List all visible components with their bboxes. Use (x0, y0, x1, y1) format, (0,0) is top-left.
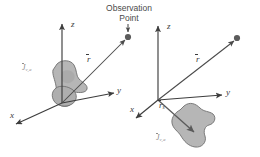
right-axis-label-x: x (130, 105, 134, 114)
right-observation-point-dot (234, 35, 240, 41)
left-source-label: Jv,a (22, 64, 32, 73)
left-vector-label-r: r (87, 55, 91, 64)
right-source-label-base: J (156, 134, 160, 142)
diagram-canvas (0, 0, 260, 157)
right-source-blob (172, 103, 215, 147)
left-source-label-base: J (22, 64, 26, 72)
right-vector-label-rs: rs (159, 101, 165, 111)
left-axis-label-z: z (71, 20, 75, 29)
left-observation-point-dot (125, 34, 131, 40)
right-panel (136, 26, 240, 147)
right-source-label: Jv,a (156, 134, 166, 143)
right-vector-r (158, 41, 234, 100)
right-vector-label-r-base: r (196, 55, 200, 64)
left-source-label-subscript: v,a (26, 67, 32, 72)
right-source-label-subscript: v,a (160, 137, 166, 142)
radiation-geometry-figure: Observation Point z y x r Jv,a z y x r r… (0, 0, 260, 157)
left-axis-x (16, 103, 62, 124)
observation-caption-line1: Observation (100, 3, 158, 13)
observation-caption-line2: Point (100, 13, 158, 23)
right-axis-x (136, 100, 158, 118)
right-axis-y (158, 95, 222, 100)
right-axis-label-y: y (226, 88, 230, 97)
right-axis-label-z: z (167, 22, 171, 31)
left-axis-label-x: x (10, 111, 14, 120)
left-panel (16, 24, 131, 124)
right-vector-label-rs-base: r (159, 101, 163, 110)
left-axis-label-y: y (117, 86, 121, 95)
observation-point-caption: Observation Point (100, 3, 158, 23)
right-vector-label-r: r (196, 55, 200, 64)
left-vector-label-r-base: r (87, 55, 91, 64)
